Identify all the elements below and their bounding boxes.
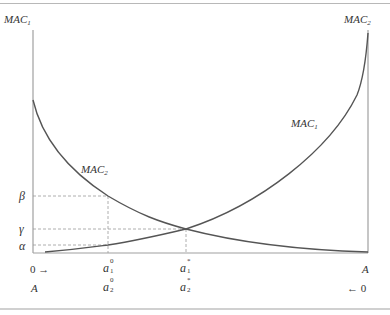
right-axis-label: MAC2: [344, 14, 371, 27]
alpha-label: α: [19, 240, 25, 252]
row2-right-origin: ← 0: [347, 283, 366, 294]
a1-zero-label: a01: [103, 262, 109, 274]
row1-left-origin: 0 →: [30, 264, 49, 275]
row2-left-A: A: [31, 283, 38, 294]
mac1-curve: [45, 33, 368, 252]
diagram-canvas: [0, 0, 390, 315]
left-axis-label: MAC1: [4, 14, 31, 27]
row1-right-A: A: [362, 264, 369, 275]
mac1-curve-label: MAC1: [291, 118, 318, 131]
beta-label: β: [19, 190, 25, 202]
a2-zero-label: a02: [103, 281, 109, 293]
mac2-curve-label: MAC2: [81, 164, 108, 177]
gamma-label: γ: [19, 223, 24, 235]
a1-star-label: a*1: [180, 262, 186, 274]
a2-star-label: a*2: [180, 281, 186, 293]
